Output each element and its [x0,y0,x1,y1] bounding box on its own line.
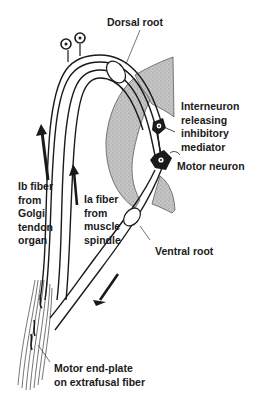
ventral-root-leader [140,226,150,240]
label-interneuron-line: Interneuron [181,100,239,114]
label-ia-fiber-line: from [84,207,121,221]
signal-direction-arrow-icon [36,124,48,180]
label-ia-fiber-line: spindle [84,234,121,248]
signal-direction-arrow-icon [69,164,79,205]
label-ia-fiber-line: muscle [84,220,121,234]
reflex-arc-diagram: Dorsal root Interneuron releasing inhibi… [0,0,255,400]
ventral-root-ellipse [120,205,144,229]
gray-matter-ventral-lobe [106,78,150,208]
label-ib-fiber-line: organ [18,234,53,248]
label-interneuron-line: inhibitory [181,127,239,141]
end-plate-leader [38,345,50,362]
dorsal-root-leader [126,30,140,64]
label-dorsal-root: Dorsal root [107,16,163,30]
interneuron-cell-icon [152,118,175,152]
sensory-ganglion-cell-icon [61,39,71,62]
label-ib-fiber-line: Ib fiber [18,180,53,194]
label-ib-fiber: Ib fiber from Golgi tendon organ [18,180,53,248]
sensory-ganglion-cell-icon [75,33,85,56]
label-ib-fiber-line: tendon [18,221,53,235]
label-ib-fiber-line: Golgi [18,207,53,221]
nerve-endings [31,295,42,350]
label-ia-fiber: Ia fiber from muscle spindle [84,193,121,247]
label-interneuron: Interneuron releasing inhibitory mediato… [181,100,239,154]
label-motor-neuron: Motor neuron [177,160,245,174]
label-motor-end-plate: Motor end-plate on extrafusal fiber [54,362,145,389]
label-interneuron-line: releasing [181,114,239,128]
label-motor-end-plate-line: on extrafusal fiber [54,376,145,390]
label-ia-fiber-line: Ia fiber [84,193,121,207]
gray-matter-ventral-horn [152,176,175,213]
label-ventral-root: Ventral root [155,245,213,259]
label-motor-end-plate-line: Motor end-plate [54,362,145,376]
label-ib-fiber-line: from [18,194,53,208]
label-interneuron-line: mediator [181,141,239,155]
signal-direction-arrow-icon [93,274,118,306]
